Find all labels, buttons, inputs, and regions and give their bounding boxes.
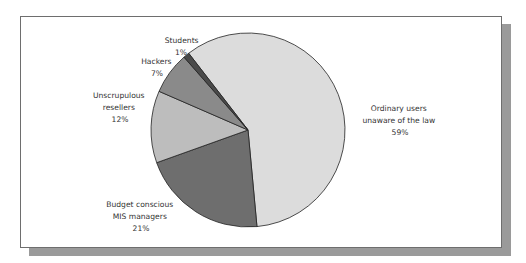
pie-chart: Ordinary users unaware of the law 59% Bu… <box>0 0 526 263</box>
label-resellers: Unscrupulous resellers 12% <box>93 91 147 124</box>
label-budget: Budget conscious MIS managers 21% <box>106 200 175 233</box>
label-ordinary: Ordinary users unaware of the law 59% <box>362 104 437 137</box>
